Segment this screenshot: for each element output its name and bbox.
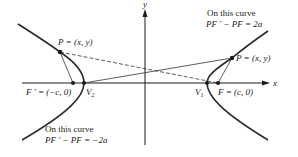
right-branch <box>207 31 268 140</box>
right-focus-point <box>216 81 220 85</box>
left-annotation-line2: PF ' − PF = −2a <box>44 135 108 145</box>
right-focus-label: F = (c, 0) <box>217 87 253 97</box>
right-p-to-left-focus <box>84 58 232 83</box>
right-p-label: P = (x, y) <box>235 53 270 63</box>
x-axis-arrow-icon <box>262 81 270 86</box>
hyperbola-curves <box>18 24 268 140</box>
right-p-to-right-focus <box>218 58 232 83</box>
v1-point <box>205 81 209 85</box>
right-annotation-line1: On this curve <box>207 8 256 18</box>
left-focus-point <box>71 81 75 85</box>
annotations: On this curve PF ' − PF = 2a On this cur… <box>44 8 263 145</box>
left-p-point <box>58 50 62 54</box>
left-annotation-line1: On this curve <box>45 124 94 134</box>
x-axis-label: x <box>272 78 277 88</box>
right-annotation-line2: PF ' − PF = 2a <box>205 19 263 29</box>
left-p-label: P = (x, y) <box>57 37 92 47</box>
v2-point <box>82 81 86 85</box>
v1-label: V1 <box>195 87 204 98</box>
left-focus-label: F ' = (−c, 0) <box>25 87 71 97</box>
focal-lines <box>60 52 232 83</box>
labels: P = (x, y) P = (x, y) F ' = (−c, 0) F = … <box>25 37 270 98</box>
hyperbola-diagram: x y P = (x, y) P = (x, y) F ' = (−c, 0) … <box>0 0 298 157</box>
y-axis-label: y <box>142 0 147 9</box>
y-axis-arrow-icon <box>143 9 148 17</box>
right-p-point <box>230 56 234 60</box>
v2-label: V2 <box>86 87 95 98</box>
